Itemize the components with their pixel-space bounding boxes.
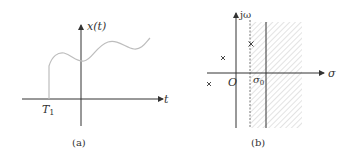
panel-a: x(t) t T1 (a) xyxy=(22,20,169,148)
panel-b: jω σ O σ0 (b) xyxy=(207,9,336,148)
y-axis-label: x(t) xyxy=(87,20,106,33)
origin-label: O xyxy=(228,76,237,89)
caption-b: (b) xyxy=(251,137,265,148)
figure-canvas: x(t) t T1 (a) jω σ O σ0 (b) xyxy=(0,0,352,160)
pole-marker xyxy=(207,82,211,86)
signal-curve xyxy=(49,38,150,99)
t1-label: T1 xyxy=(42,103,54,117)
jw-axis-label: jω xyxy=(239,9,251,20)
caption-a: (a) xyxy=(72,137,86,148)
sigma-axis-label: σ xyxy=(328,67,336,80)
pole-marker xyxy=(221,56,225,60)
x-axis-label: t xyxy=(164,93,169,106)
